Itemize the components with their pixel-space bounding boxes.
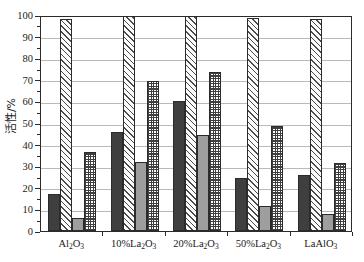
bar-20%La2O3-series-4 (209, 72, 221, 231)
bar-Al2O3-series-4 (84, 152, 96, 231)
y-tick-label: 0 (7, 227, 33, 237)
bar-LaAlO3-series-2 (310, 19, 322, 231)
y-tick-label: 40 (7, 141, 33, 151)
bar-Al2O3-series-3 (72, 218, 84, 231)
bar-LaAlO3-series-4 (334, 163, 346, 231)
bar-chart: 活性/% 0102030405060708090100 Al2O310%La2O… (0, 0, 364, 262)
y-tick-label: 30 (7, 162, 33, 172)
y-tick-label: 60 (7, 97, 33, 107)
bar-LaAlO3-series-3 (322, 214, 334, 231)
bar-50%La2O3-series-1 (235, 178, 247, 231)
y-tick-label: 80 (7, 54, 33, 64)
x-tick (227, 232, 228, 236)
y-tick-label: 20 (7, 184, 33, 194)
x-tick (352, 232, 353, 236)
bar-10%La2O3-series-4 (147, 81, 159, 231)
bar-Al2O3-series-2 (60, 19, 72, 231)
bar-50%La2O3-series-3 (259, 206, 271, 231)
y-tick-label: 90 (7, 33, 33, 43)
y-tick-label: 100 (7, 11, 33, 21)
x-tick (290, 232, 291, 236)
bar-50%La2O3-series-2 (247, 18, 259, 231)
x-tick (165, 232, 166, 236)
bar-LaAlO3-series-1 (298, 175, 310, 231)
bar-10%La2O3-series-3 (135, 162, 147, 231)
plot-area (40, 16, 352, 232)
bar-10%La2O3-series-1 (111, 132, 123, 231)
x-tick (102, 232, 103, 236)
bar-20%La2O3-series-2 (185, 16, 197, 231)
bar-20%La2O3-series-3 (197, 135, 209, 231)
y-tick-label: 50 (7, 119, 33, 129)
bar-Al2O3-series-1 (48, 194, 60, 231)
y-tick-label: 70 (7, 76, 33, 86)
bar-20%La2O3-series-1 (173, 101, 185, 231)
x-axis-label-LaAlO3: LaAlO3 (281, 238, 361, 249)
bar-50%La2O3-series-4 (271, 126, 283, 231)
y-tick-label: 10 (7, 205, 33, 215)
bar-10%La2O3-series-2 (123, 16, 135, 231)
